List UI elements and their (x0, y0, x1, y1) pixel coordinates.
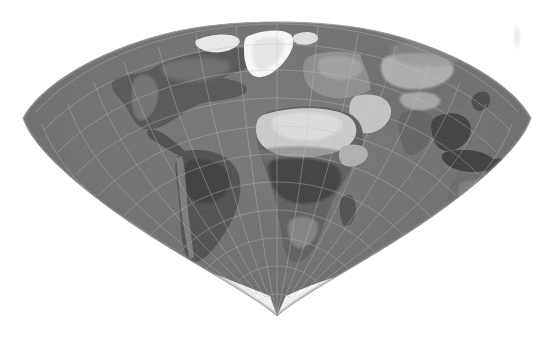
cordiform-world-map (0, 0, 553, 343)
world-map-figure (0, 0, 553, 343)
